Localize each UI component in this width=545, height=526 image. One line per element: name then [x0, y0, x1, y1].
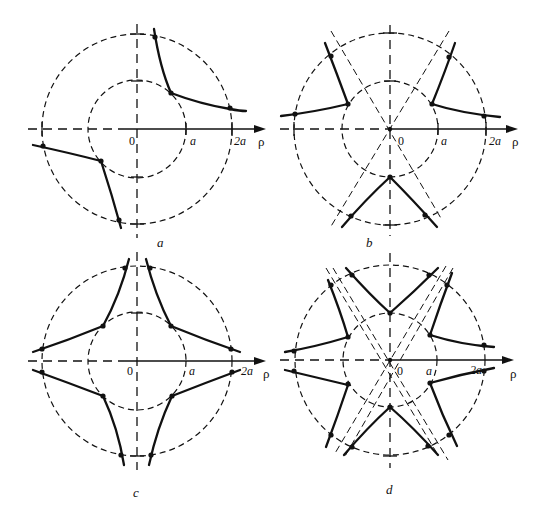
- panel-caption-a: a: [157, 235, 164, 250]
- panel-b: 0 a 2a ρ b: [280, 25, 519, 250]
- point: [345, 101, 350, 106]
- curve-lr-lower: [430, 383, 457, 446]
- point: [116, 217, 121, 222]
- point: [446, 54, 451, 59]
- point: [427, 380, 432, 385]
- point: [228, 346, 233, 351]
- point: [229, 369, 234, 374]
- curve-q1-lower: [171, 93, 246, 111]
- point: [39, 369, 44, 374]
- a-label: a: [189, 364, 195, 378]
- diagram-canvas: 0 a 2a ρ a: [0, 0, 545, 526]
- point: [426, 272, 431, 277]
- point: [100, 323, 105, 328]
- curve-left-lower: [281, 104, 348, 116]
- origin-label: 0: [397, 364, 403, 378]
- point: [328, 282, 333, 287]
- point: [422, 212, 427, 217]
- origin-label: 0: [127, 364, 133, 378]
- point: [444, 282, 449, 287]
- point: [169, 393, 174, 398]
- origin-label: 0: [129, 134, 135, 148]
- point: [446, 432, 451, 437]
- point: [291, 368, 296, 373]
- symmetry-line-neg60: [331, 31, 442, 220]
- curve-left-upper: [325, 43, 348, 104]
- point: [292, 111, 297, 116]
- arrow-head-icon: [506, 125, 518, 133]
- 2a-label: 2a: [470, 363, 482, 377]
- a-label: a: [441, 134, 447, 148]
- panel-caption-d: d: [386, 482, 393, 497]
- point: [481, 368, 486, 373]
- point: [291, 348, 296, 353]
- arrow-head-icon: [254, 357, 266, 365]
- point: [387, 310, 392, 315]
- rho-label: ρ: [510, 366, 517, 381]
- point: [328, 432, 333, 437]
- point: [481, 342, 486, 347]
- point: [349, 272, 354, 277]
- point: [122, 265, 127, 270]
- point: [328, 53, 333, 58]
- arrow-head-icon: [502, 356, 514, 364]
- point: [227, 105, 232, 110]
- 2a-label: 2a: [241, 364, 253, 378]
- curve-right-lower: [432, 104, 500, 117]
- point: [481, 113, 486, 118]
- point: [348, 213, 353, 218]
- curve-right-upper: [432, 43, 455, 104]
- point: [429, 101, 434, 106]
- curve-ur-upper: [430, 273, 452, 335]
- panel-a: 0 a 2a ρ a: [28, 24, 266, 250]
- curve-bottom-right: [390, 177, 437, 227]
- origin-point: [388, 358, 392, 362]
- point: [425, 443, 430, 448]
- 2a-label: 2a: [489, 134, 501, 148]
- point: [147, 265, 152, 270]
- point: [100, 393, 105, 398]
- point: [118, 452, 123, 457]
- a-label: a: [426, 364, 432, 378]
- 2a-label: 2a: [234, 134, 246, 148]
- point: [168, 323, 173, 328]
- rho-label: ρ: [512, 134, 519, 149]
- panel-c: 0 a 2a ρ c: [28, 252, 270, 500]
- arrow-head-icon: [254, 125, 266, 133]
- origin-label: 0: [398, 134, 404, 148]
- point: [98, 158, 103, 163]
- point: [345, 334, 350, 339]
- point: [349, 444, 354, 449]
- point: [152, 34, 157, 39]
- figure: 0 a 2a ρ a: [0, 0, 545, 526]
- point: [40, 143, 45, 148]
- panel-caption-c: c: [133, 485, 139, 500]
- point: [387, 174, 392, 179]
- point: [148, 452, 153, 457]
- point: [168, 90, 173, 95]
- origin-point: [388, 127, 392, 131]
- point: [387, 404, 392, 409]
- point: [39, 346, 44, 351]
- point: [427, 332, 432, 337]
- rho-label: ρ: [258, 134, 265, 149]
- panel-caption-b: b: [366, 235, 373, 250]
- rho-label: ρ: [263, 366, 270, 381]
- panel-d: 0 a 2a ρ d: [280, 253, 517, 497]
- point: [345, 381, 350, 386]
- curve-bottom-left: [342, 177, 390, 227]
- a-label: a: [190, 134, 196, 148]
